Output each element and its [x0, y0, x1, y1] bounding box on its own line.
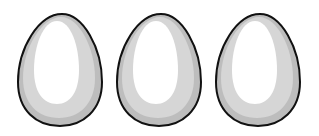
egg-icon — [15, 12, 105, 128]
egg-icon — [114, 12, 204, 128]
egg-3 — [213, 12, 303, 128]
egg-2 — [114, 12, 204, 128]
egg-1 — [15, 12, 105, 128]
egg-icon — [213, 12, 303, 128]
